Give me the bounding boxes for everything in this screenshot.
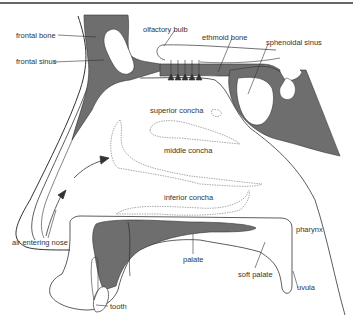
hard-palate-bone <box>93 220 256 290</box>
label-pharynx: pharynx <box>296 225 323 234</box>
label-frontal-bone: frontal bone <box>16 31 56 40</box>
label-air-entering-nose: air entering nose <box>12 238 68 247</box>
label-uvula: uvula <box>297 283 315 292</box>
olfactory-bulb <box>157 45 276 60</box>
middle-concha-shape <box>150 121 240 144</box>
label-olfactory-bulb: olfactory bulb <box>143 25 188 34</box>
label-tooth: tooth <box>110 302 127 311</box>
label-superior-concha: superior concha <box>150 106 203 115</box>
nasal-cavity-diagram <box>0 0 353 323</box>
superior-concha-shape <box>211 109 221 116</box>
tooth-shape <box>93 287 108 312</box>
label-soft-palate: soft palate <box>238 270 273 279</box>
sphenoidal-sinus-cavity <box>237 77 274 125</box>
label-sphenoidal-sinus: sphenoidal sinus <box>266 38 322 47</box>
label-palate: palate <box>183 255 203 264</box>
label-ethmoid-bone: ethmoid bone <box>202 33 247 42</box>
label-frontal-sinus: frontal sinus <box>16 57 56 66</box>
label-inferior-concha: inferior concha <box>164 193 213 202</box>
label-middle-concha: middle concha <box>164 146 212 155</box>
